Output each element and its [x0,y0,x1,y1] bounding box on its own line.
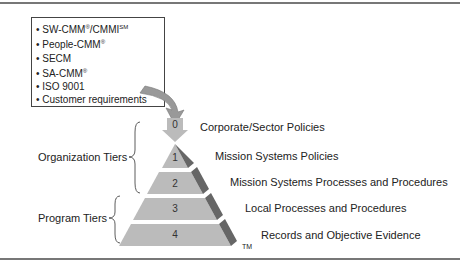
organization-tiers-label: Organization Tiers [38,151,127,163]
tier-0-number: 0 [165,119,185,130]
tier-2-label: Mission Systems Processes and Procedures [230,176,448,188]
program-brace [109,196,120,243]
tier-1-number: 1 [165,152,185,163]
tier-0-label: Corporate/Sector Policies [200,121,325,133]
tier-4-number: 4 [165,229,185,240]
tier-2-number: 2 [165,178,185,189]
tier-4-label: Records and Objective Evidence [261,229,421,241]
trademark-mark: TM [242,243,252,250]
tier-3-label: Local Processes and Procedures [245,202,406,214]
organization-brace [129,122,140,193]
tier-3-number: 3 [165,203,185,214]
program-tiers-label: Program Tiers [38,212,107,224]
tier-1-label: Mission Systems Policies [215,150,338,162]
